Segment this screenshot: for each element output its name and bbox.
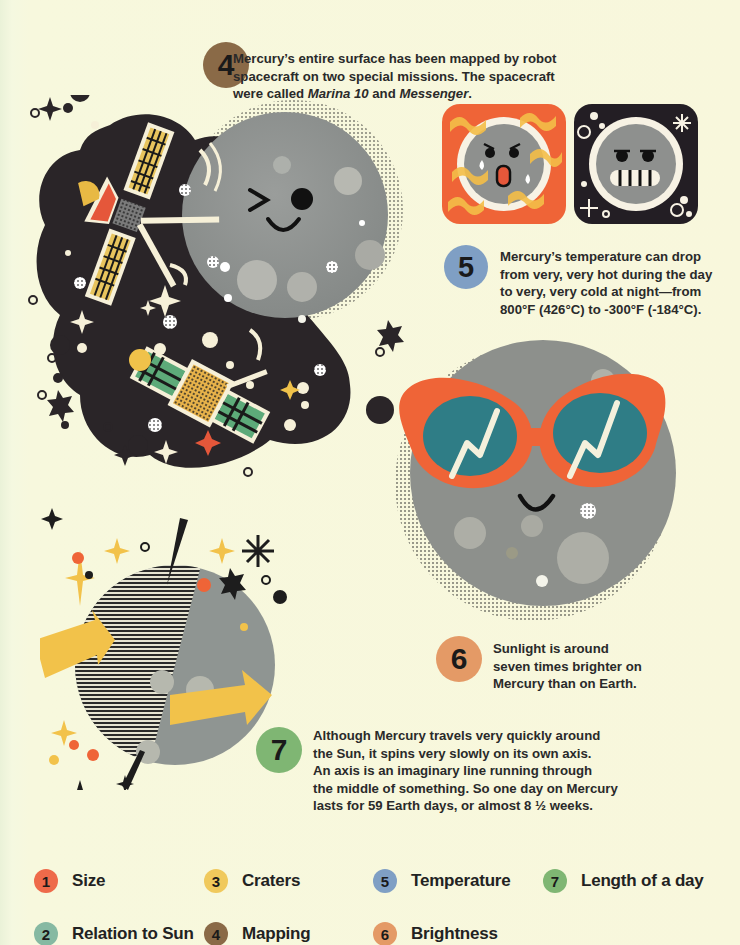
legend-number: 5 [381,873,389,890]
mercury-with-sunglasses [395,333,685,628]
cold-mercury-face-icon [574,104,698,224]
fact-7-line: Although Mercury travels very quickly ar… [313,727,643,745]
legend-item-mapping[interactable]: 4 Mapping [204,922,310,945]
legend-dot: 6 [373,922,397,945]
fact-7-line: An axis is an imaginary line running thr… [313,762,643,780]
legend-item-length-of-a-day[interactable]: 7 Length of a day [543,869,704,893]
page: 4 Mercury’s entire surface has been mapp… [0,0,740,945]
fact-5-line: 800°F (426°C) to -300°F (-184°C). [500,301,740,319]
fact-7-number: 7 [271,733,288,767]
fact-6-line: seven times brighter on [493,658,693,676]
legend-dot: 3 [204,869,228,893]
fact-6-line: Sunlight is around [493,640,693,658]
legend-number: 7 [551,873,559,890]
legend-label: Craters [242,871,300,891]
fact-7-line: the Sun, it spins very slowly on its own… [313,745,643,763]
fact-4-number: 4 [218,48,235,82]
legend-number: 1 [42,873,50,890]
fact-6-text: Sunlight is around seven times brighter … [493,640,693,693]
legend-label: Temperature [411,871,511,891]
legend-item-temperature[interactable]: 5 Temperature [373,869,511,893]
fact-5-text: Mercury’s temperature can drop from very… [500,248,740,318]
fact-6-line: Mercury than on Earth. [493,675,693,693]
fact-7-line: the middle of something. So one day on M… [313,780,643,798]
legend-item-size[interactable]: 1 Size [34,869,105,893]
legend-dot: 5 [373,869,397,893]
fact-7-line: lasts for 59 Earth days, or almost 8 ½ w… [313,797,643,815]
legend-label: Mapping [242,924,310,944]
hot-mercury-face-icon [442,104,566,224]
legend-label: Length of a day [581,871,704,891]
legend-dot: 4 [204,922,228,945]
legend-item-brightness[interactable]: 6 Brightness [373,922,498,945]
spacecraft-mapping-illustration [20,95,410,485]
legend-label: Brightness [411,924,498,944]
legend-dot: 1 [34,869,58,893]
legend-dot: 7 [543,869,567,893]
legend-number: 2 [42,926,50,943]
legend-item-craters[interactable]: 3 Craters [204,869,300,893]
legend-label: Size [72,871,105,891]
fact-4-text-part: . [468,86,472,101]
legend-item-relation-to-sun[interactable]: 2 Relation to Sun [34,922,194,945]
legend-number: 3 [212,873,220,890]
legend-number: 6 [381,926,389,943]
fact-7-badge: 7 [256,727,302,773]
legend-number: 4 [212,926,220,943]
fact-7-text: Although Mercury travels very quickly ar… [313,727,643,815]
fact-6-number: 6 [451,642,468,676]
fact-5-line: from very, very hot during the day [500,266,740,284]
fact-5-number: 5 [458,251,474,284]
legend-dot: 2 [34,922,58,945]
fact-5-line: Mercury’s temperature can drop [500,248,740,266]
fact-5-badge: 5 [444,245,488,289]
fact-5-line: to very, very cold at night—from [500,283,740,301]
fact-6-badge: 6 [436,636,482,682]
legend-label: Relation to Sun [72,924,194,944]
